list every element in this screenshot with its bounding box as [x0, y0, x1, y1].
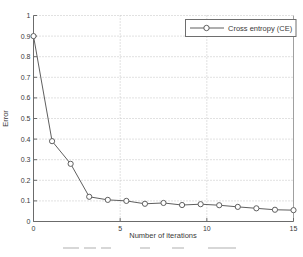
figure-cross-entropy-plot: 051015 00.10.20.30.40.50.60.70.80.91 Err… — [0, 0, 303, 257]
y-tick-label: 0.3 — [21, 156, 31, 163]
y-tick-label: 0 — [27, 218, 31, 225]
cropped-caption-fragment — [63, 247, 236, 249]
data-point-marker — [161, 200, 166, 205]
y-tick-label: 0.5 — [21, 115, 31, 122]
data-point-marker — [198, 202, 203, 207]
data-point-marker — [105, 197, 110, 202]
data-point-marker — [31, 34, 36, 39]
y-tick-labels: 00.10.20.30.40.50.60.70.80.91 — [21, 12, 31, 225]
data-point-marker — [235, 204, 240, 209]
gridlines — [34, 16, 294, 222]
data-point-marker — [68, 161, 73, 166]
y-tick-label: 0.6 — [21, 94, 31, 101]
data-point-marker — [272, 207, 277, 212]
y-tick-label: 0.1 — [21, 197, 31, 204]
y-tick-label: 0.2 — [21, 177, 31, 184]
y-axis-label: Error — [1, 110, 10, 127]
legend-marker-sample — [204, 25, 209, 30]
y-tick-label: 1 — [27, 12, 31, 19]
x-axis-label: Number of iterations — [129, 231, 197, 240]
x-tick-label: 0 — [32, 225, 36, 232]
data-point-marker — [291, 208, 296, 213]
x-tick-label: 15 — [290, 225, 298, 232]
y-tick-label: 0.9 — [21, 33, 31, 40]
series-markers — [31, 34, 296, 213]
data-point-marker — [254, 206, 259, 211]
y-tick-label: 0.4 — [21, 136, 31, 143]
legend-label: Cross entropy (CE) — [228, 24, 293, 33]
data-point-marker — [217, 203, 222, 208]
data-point-marker — [49, 139, 54, 144]
data-point-marker — [179, 202, 184, 207]
data-point-marker — [142, 201, 147, 206]
legend: Cross entropy (CE) — [186, 20, 297, 37]
series-line — [34, 36, 294, 210]
data-point-marker — [87, 194, 92, 199]
y-tick-label: 0.7 — [21, 74, 31, 81]
y-tick-label: 0.8 — [21, 53, 31, 60]
series-cross-entropy — [31, 34, 296, 213]
data-point-marker — [124, 198, 129, 203]
x-tick-label: 5 — [118, 225, 122, 232]
x-tick-label: 10 — [203, 225, 211, 232]
chart-canvas: 051015 00.10.20.30.40.50.60.70.80.91 Err… — [0, 0, 303, 257]
